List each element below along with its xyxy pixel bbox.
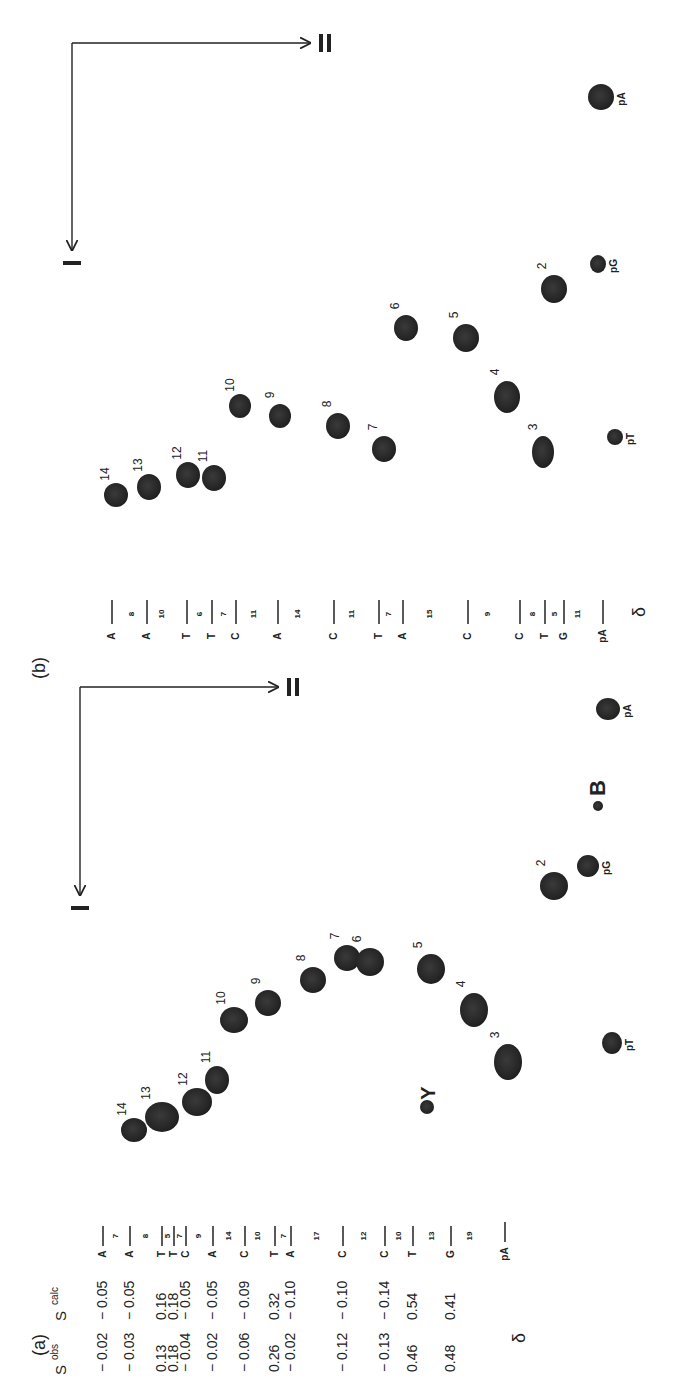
panel-a-axis-I-label bbox=[71, 906, 89, 910]
panel-b-spot-11: 11 bbox=[196, 449, 226, 491]
cell-nucleotide: T bbox=[407, 1251, 418, 1257]
delta-symbol: δ bbox=[509, 1333, 529, 1343]
ladder-number: 14 bbox=[293, 609, 302, 618]
panel-b-spot-3: 3 bbox=[526, 423, 554, 468]
spot-blob bbox=[394, 315, 418, 341]
header-s-obs: S bbox=[52, 1365, 69, 1375]
spot-label: 10 bbox=[223, 378, 237, 392]
spot-label: 8 bbox=[320, 400, 334, 407]
spot-blob bbox=[494, 381, 520, 413]
panel-b-spot-2: 2 bbox=[535, 262, 567, 303]
ladder-number: 19 bbox=[465, 1231, 474, 1240]
cell-s-obs: − 0.06 bbox=[236, 1332, 252, 1372]
spot-label: 13 bbox=[139, 1086, 153, 1100]
panel-a-spot-Y: Y bbox=[417, 1086, 439, 1114]
ladder-number: 17 bbox=[312, 1231, 321, 1240]
cell-s-calc: − 0.09 bbox=[236, 1280, 252, 1320]
spot-label: 3 bbox=[526, 423, 540, 430]
table-row: 0.480.41G bbox=[442, 1226, 458, 1372]
panel-b-spot-13: 13 bbox=[131, 458, 161, 500]
cell-nucleotide: C bbox=[180, 1250, 191, 1257]
spot-label: 7 bbox=[366, 423, 380, 430]
ladder-nucleotide: C bbox=[328, 632, 339, 639]
spot-blob bbox=[540, 872, 568, 900]
panel-a-spot-B: B bbox=[585, 780, 610, 811]
spot-blob bbox=[577, 855, 599, 877]
panel-b-axis-I-label bbox=[63, 261, 81, 265]
cell-s-obs: − 0.04 bbox=[177, 1332, 193, 1372]
ladder-number: 11 bbox=[249, 609, 258, 618]
panel-a-spot-pT: pT bbox=[602, 1032, 635, 1054]
ladder-number: 5 bbox=[163, 1233, 172, 1238]
spot-blob bbox=[420, 1100, 434, 1114]
ladder-nucleotide: T bbox=[181, 633, 192, 639]
ladder-nucleotide: A bbox=[397, 632, 408, 639]
panel-b-spot-pT: pT bbox=[607, 429, 636, 445]
cell-s-calc: − 0.05 bbox=[94, 1280, 110, 1320]
panel-b: (b)A8A10T6T7C11A14C11T7A15C9C8T5G11pAδ14… bbox=[29, 34, 649, 679]
panel-a-axis-II-label bbox=[287, 678, 291, 696]
ladder-number: 11 bbox=[573, 609, 582, 618]
ladder-number: 7 bbox=[111, 1233, 120, 1238]
panel-b-spot-8: 8 bbox=[320, 400, 350, 439]
header-s-calc-sup: calc bbox=[49, 1287, 60, 1305]
spot-label: 5 bbox=[411, 941, 425, 948]
panel-b-spot-14: 14 bbox=[98, 467, 128, 507]
panel-a-spot-pA: pA bbox=[596, 698, 633, 720]
cell-nucleotide: G bbox=[445, 1250, 456, 1258]
panel-a-spots: 141312111098765432pGpTYBpA bbox=[115, 698, 634, 1142]
spot-blob bbox=[460, 993, 488, 1027]
spot-label: pT bbox=[625, 433, 636, 445]
spot-label: 12 bbox=[170, 446, 184, 460]
cell-nucleotide: A bbox=[285, 1250, 296, 1257]
table-row: − 0.06− 0.09C bbox=[236, 1226, 252, 1372]
panel-b-axis-II-label bbox=[319, 34, 323, 52]
spot-blob bbox=[137, 474, 161, 500]
spot-blob bbox=[541, 275, 567, 303]
panel-b-spot-pA: pA bbox=[588, 84, 627, 110]
spot-label: 5 bbox=[447, 311, 461, 318]
spot-label: 2 bbox=[534, 859, 548, 866]
spot-blob bbox=[593, 801, 603, 811]
panel-b-spots: 141312111098765432pGpTpA bbox=[98, 84, 635, 507]
ladder-number: 12 bbox=[359, 1231, 368, 1240]
panel-a-spot-5: 5 bbox=[411, 941, 445, 984]
spot-blob bbox=[229, 394, 251, 418]
spot-label: 6 bbox=[350, 935, 364, 942]
header-s-calc: S bbox=[52, 1311, 69, 1321]
table-row: 0.460.54T bbox=[404, 1226, 420, 1372]
spot-label: 12 bbox=[176, 1072, 190, 1086]
cell-nucleotide: C bbox=[337, 1250, 348, 1257]
panel-b-spot-9: 9 bbox=[263, 391, 291, 428]
ladder-number: 15 bbox=[425, 609, 434, 618]
spot-label: B bbox=[585, 780, 610, 796]
spot-label: pA bbox=[616, 92, 627, 105]
panel-b-spot-10: 10 bbox=[223, 378, 251, 418]
spot-blob bbox=[145, 1102, 179, 1132]
ladder-number: 7 bbox=[175, 1233, 184, 1238]
table-row: − 0.02− 0.05A bbox=[204, 1226, 220, 1372]
cell-s-calc: 0.54 bbox=[404, 1293, 420, 1320]
ladder-number: 7 bbox=[384, 611, 393, 616]
cell-nucleotide: C bbox=[379, 1250, 390, 1257]
spot-blob bbox=[121, 1118, 147, 1142]
cell-s-obs: 0.46 bbox=[404, 1345, 420, 1372]
spot-blob bbox=[596, 698, 620, 720]
table-row: − 0.03− 0.05A bbox=[121, 1226, 137, 1372]
spot-blob bbox=[417, 954, 445, 984]
spot-blob bbox=[607, 429, 623, 445]
delta-symbol: δ bbox=[629, 607, 649, 617]
panel-a-spot-14: 14 bbox=[115, 1102, 147, 1142]
spot-label: 7 bbox=[328, 932, 342, 939]
cell-s-calc: − 0.05 bbox=[177, 1280, 193, 1320]
table-row: − 0.02− 0.05A bbox=[94, 1226, 110, 1372]
spot-blob bbox=[182, 1088, 212, 1116]
panel-a-spot-2: 2 bbox=[534, 859, 568, 900]
panel-a-table-body: − 0.02− 0.05A− 0.03− 0.05A0.130.16T0.180… bbox=[94, 1222, 529, 1372]
panel-b-spot-pG: pG bbox=[590, 255, 619, 273]
cell-s-obs: − 0.02 bbox=[94, 1332, 110, 1372]
cell-s-obs: − 0.13 bbox=[376, 1332, 392, 1372]
panel-b-spot-5: 5 bbox=[447, 311, 479, 352]
cell-nucleotide: A bbox=[207, 1250, 218, 1257]
ladder-nucleotide: T bbox=[206, 633, 217, 639]
